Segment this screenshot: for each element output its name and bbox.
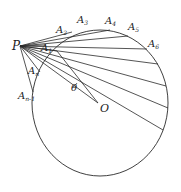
label-P: P	[12, 40, 20, 52]
chord-line	[20, 36, 128, 46]
label-A3: A3	[77, 15, 88, 26]
label-theta: θ	[71, 83, 77, 93]
label-A5: A5	[128, 22, 139, 33]
chord-line	[20, 46, 163, 130]
label-A4: A4	[105, 16, 116, 27]
label-A2: A2	[56, 25, 67, 36]
label-A1: A1	[41, 43, 52, 54]
label-A6: A6	[148, 39, 159, 50]
label-An: An	[28, 66, 39, 77]
line-A1-to-O	[57, 51, 98, 103]
circle-diagram: P A1 A2 A3 A4 A5 A6 An An-1 θ O	[0, 0, 181, 192]
label-An-1: An-1	[18, 91, 35, 102]
label-O: O	[100, 103, 109, 114]
